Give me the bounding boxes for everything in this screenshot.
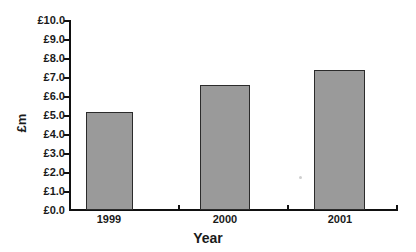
x-tick-label-1999: 1999	[74, 213, 144, 225]
bar-2000	[200, 85, 250, 210]
y-tick-label: £7.0	[13, 72, 65, 83]
y-tick-label: £8.0	[13, 53, 65, 64]
x-tick-label-2001: 2001	[305, 213, 375, 225]
y-tick-label: £10.0	[13, 15, 65, 26]
y-tick-label: £5.0	[13, 110, 65, 121]
y-tick-label: £9.0	[13, 34, 65, 45]
y-tick-label: £2.0	[13, 167, 65, 178]
scan-speck	[299, 176, 302, 179]
y-axis-tick-labels: £10.0 £9.0 £8.0 £7.0 £6.0 £5.0 £4.0 £3.0…	[13, 0, 65, 252]
y-tick-label: £4.0	[13, 129, 65, 140]
y-axis-line	[69, 20, 71, 211]
x-tick-label-2000: 2000	[190, 213, 260, 225]
bar-chart: £m £10.0 £9.0 £8.0 £7.0 £6.0 £5.0 £4.0 £…	[0, 0, 416, 252]
bar-1999	[86, 112, 133, 210]
x-tick-mark	[287, 205, 289, 210]
y-tick-label: £3.0	[13, 148, 65, 159]
x-axis-title: Year	[0, 230, 416, 246]
bar-2001	[314, 70, 365, 210]
y-tick-label: £6.0	[13, 91, 65, 102]
y-tick-label: £0.0	[13, 205, 65, 216]
x-tick-mark	[178, 205, 180, 210]
x-tick-mark	[396, 205, 398, 210]
y-tick-label: £1.0	[13, 186, 65, 197]
